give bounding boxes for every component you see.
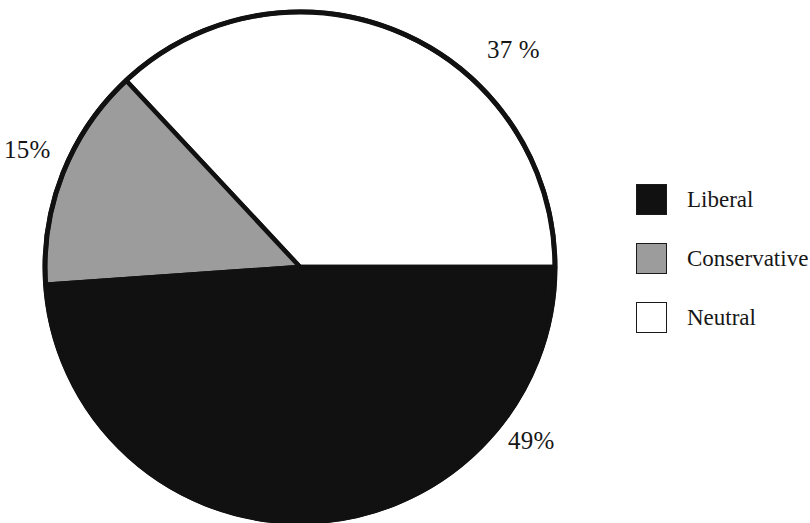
legend-item-conservative[interactable]: Conservative (636, 239, 810, 277)
legend-label-conservative: Conservative (687, 247, 808, 270)
pie-chart-figure: 37 % 15% 49% Liberal Conservative Neutra… (0, 0, 810, 523)
legend-label-neutral: Neutral (687, 306, 756, 329)
legend-swatch-liberal (636, 184, 667, 215)
pie-label-neutral-percent: 37 % (487, 36, 540, 64)
legend-swatch-conservative (636, 243, 667, 274)
pie-slice-liberal[interactable] (46, 267, 555, 522)
pie-label-liberal-percent: 49% (508, 427, 554, 455)
chart-legend: Liberal Conservative Neutral (636, 180, 810, 336)
legend-swatch-neutral (636, 302, 667, 333)
legend-label-liberal: Liberal (687, 188, 753, 211)
legend-item-neutral[interactable]: Neutral (636, 298, 810, 336)
pie-label-conservative-percent: 15% (4, 136, 50, 164)
legend-item-liberal[interactable]: Liberal (636, 180, 810, 218)
